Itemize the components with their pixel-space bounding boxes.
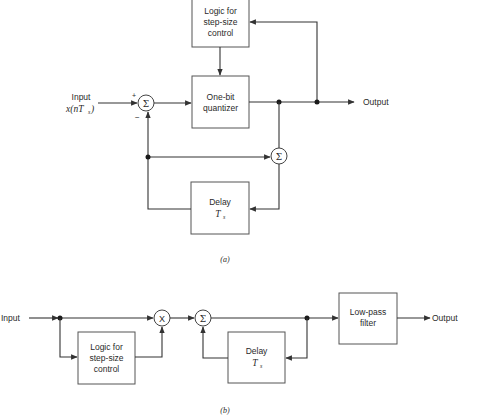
delta-modulation-diagram: Logic for step-size control One-bit quan…: [0, 0, 477, 415]
delay-label-b: Delay: [246, 346, 268, 356]
figure-a: Logic for step-size control One-bit quan…: [65, 0, 389, 264]
lowpass-label-line1: Low-pass: [350, 307, 386, 317]
output-to-delay-arrow: [286, 318, 307, 358]
logic-to-multiplier-arrow: [135, 327, 162, 357]
logic-label-line3-a: control: [208, 28, 234, 38]
sum-symbol-b: Σ: [200, 314, 206, 324]
figure-b: Input Logic for step-size control X Σ De…: [1, 293, 458, 415]
lowpass-label-line2: filter: [360, 318, 376, 328]
output-label-b: Output: [432, 313, 458, 323]
sum-symbol-1-a: Σ: [143, 99, 149, 109]
plus-sign: +: [132, 92, 136, 99]
caption-b: (b): [220, 406, 230, 415]
input-to-logic-arrow: [60, 318, 77, 357]
delay-label-a: Delay: [209, 197, 231, 207]
delay-block-a: [191, 182, 249, 234]
junction-dot-3-a: [146, 155, 151, 160]
input-label-a: Input: [72, 92, 92, 102]
minus-sign: −: [135, 113, 140, 122]
accumulator-to-delay-arrow: [250, 164, 279, 209]
logic-label-line2-b: step-size: [89, 353, 123, 363]
delay-output-line: [148, 157, 191, 209]
feedback-to-logic-arrow: [250, 22, 317, 102]
logic-label-line2-a: step-size: [203, 17, 237, 27]
caption-a: (a): [220, 255, 230, 264]
input-label-b: Input: [1, 313, 21, 323]
sum-symbol-2-a: Σ: [276, 152, 282, 162]
delay-to-sum-arrow: [203, 327, 228, 358]
multiply-symbol: X: [159, 314, 165, 324]
quantizer-label-line2: quantizer: [203, 103, 238, 113]
quantizer-label-line1: One-bit: [207, 92, 236, 102]
one-bit-quantizer-block: [192, 76, 249, 128]
logic-label-line3-b: control: [94, 364, 120, 374]
logic-label-line1-a: Logic for: [204, 6, 237, 16]
logic-label-line1-b: Logic for: [90, 342, 123, 352]
delay-ts-b: T: [252, 358, 258, 368]
junction-dot-2-a: [315, 100, 320, 105]
delay-ts-a: T: [215, 209, 221, 219]
input-signal-close-a: ): [90, 104, 94, 115]
input-signal-a: x(nT: [65, 104, 84, 115]
output-label-a: Output: [363, 97, 389, 107]
